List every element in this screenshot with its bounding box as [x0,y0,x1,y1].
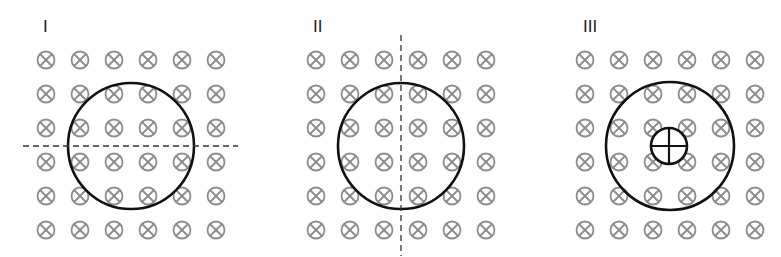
field-into-page-icon [72,222,89,239]
field-into-page-icon [72,86,89,103]
field-into-page-icon [410,120,427,137]
field-into-page-icon [342,222,359,239]
field-into-page-icon [308,188,325,205]
field-into-page-icon [376,222,393,239]
field-into-page-icon [140,154,157,171]
field-into-page-icon [747,52,764,69]
field-into-page-icon [308,120,325,137]
field-into-page-icon [38,188,55,205]
field-into-page-icon [679,188,696,205]
field-into-page-icon [747,188,764,205]
field-into-page-icon [478,86,495,103]
field-into-page-icon [645,52,662,69]
field-into-page-icon [478,222,495,239]
diagram-stage: I II III [0,0,781,257]
field-into-page-icon [208,52,225,69]
field-into-page-icon [376,52,393,69]
field-into-page-icon [478,120,495,137]
field-into-page-icon [679,222,696,239]
field-into-page-icon [645,86,662,103]
field-into-page-icon [342,86,359,103]
field-into-page-icon [444,86,461,103]
field-into-page-icon [174,154,191,171]
field-into-page-icon [308,222,325,239]
field-into-page-icon [444,222,461,239]
field-into-page-icon [140,222,157,239]
field-into-page-icon [376,188,393,205]
field-into-page-icon [747,86,764,103]
field-into-page-icon [645,222,662,239]
field-into-page-icon [444,52,461,69]
panel-label-i: I [43,18,48,35]
field-into-page-icon [174,222,191,239]
panel-label-ii: II [313,18,322,35]
field-into-page-icon [611,222,628,239]
field-into-page-icon [376,154,393,171]
field-into-page-icon [679,86,696,103]
field-into-page-icon [38,120,55,137]
panel-label-iii: III [583,18,597,35]
field-into-page-icon [747,120,764,137]
field-into-page-icon [611,154,628,171]
field-into-page-icon [577,52,594,69]
field-into-page-icon [713,154,730,171]
field-into-page-icon [713,222,730,239]
field-into-page-icon [747,154,764,171]
field-into-page-icon [577,188,594,205]
field-into-page-icon [342,52,359,69]
field-into-page-icon [410,222,427,239]
field-into-page-icon [72,154,89,171]
field-into-page-icon [308,86,325,103]
field-into-page-icon [478,154,495,171]
field-into-page-icon [208,188,225,205]
field-into-page-icon [410,154,427,171]
diagram-canvas [0,0,781,257]
field-into-page-icon [478,188,495,205]
field-into-page-icon [106,222,123,239]
field-into-page-icon [611,120,628,137]
field-into-page-icon [38,222,55,239]
field-into-page-icon [478,52,495,69]
field-into-page-icon [308,52,325,69]
field-into-page-icon [208,154,225,171]
field-into-page-icon [577,154,594,171]
field-into-page-icon [140,120,157,137]
field-into-page-icon [342,154,359,171]
field-into-page-icon [577,120,594,137]
field-into-page-icon [645,188,662,205]
field-into-page-icon [376,120,393,137]
field-into-page-icon [713,52,730,69]
field-into-page-icon [577,86,594,103]
field-into-page-icon [106,188,123,205]
field-into-page-icon [308,154,325,171]
field-into-page-icon [713,120,730,137]
field-into-page-icon [410,188,427,205]
field-into-page-icon [444,154,461,171]
field-into-page-icon [174,52,191,69]
field-into-page-icon [577,222,594,239]
field-into-page-icon [106,52,123,69]
field-into-page-icon [38,86,55,103]
field-into-page-icon [208,120,225,137]
field-into-page-icon [410,52,427,69]
field-into-page-icon [140,188,157,205]
field-into-page-icon [106,120,123,137]
field-into-page-icon [679,52,696,69]
field-into-page-icon [38,154,55,171]
field-into-page-icon [611,52,628,69]
field-into-page-icon [174,86,191,103]
field-into-page-icon [140,52,157,69]
field-into-page-icon [208,86,225,103]
field-into-page-icon [106,154,123,171]
field-into-page-icon [747,222,764,239]
field-into-page-icon [38,52,55,69]
field-into-page-icon [72,52,89,69]
field-into-page-icon [208,222,225,239]
